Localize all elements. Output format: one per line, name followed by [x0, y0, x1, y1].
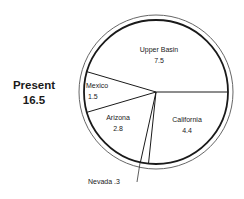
pie-chart: Upper Basin 7.5 Mexico 1.5 Arizona 2.8 C…	[0, 0, 244, 199]
label-california-value: 4.4	[182, 127, 192, 134]
label-arizona-name: Arizona	[106, 114, 130, 121]
label-arizona-value: 2.8	[113, 125, 123, 132]
label-nevada: Nevada .3	[88, 178, 120, 185]
label-california-name: California	[172, 116, 202, 123]
label-upper-basin-value: 7.5	[154, 57, 164, 64]
label-upper-basin-name: Upper Basin	[140, 46, 179, 54]
label-mexico-value: 1.5	[88, 93, 98, 100]
label-mexico-name: Mexico	[86, 82, 108, 89]
nevada-leader-line	[137, 163, 140, 182]
